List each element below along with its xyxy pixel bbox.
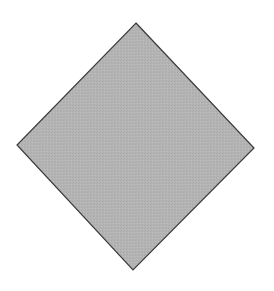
- diamond-figure: [0, 0, 274, 291]
- figure-canvas: [0, 0, 274, 291]
